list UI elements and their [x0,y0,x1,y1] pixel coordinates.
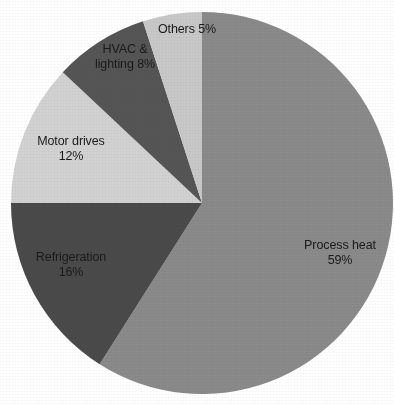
pie-slices-group [11,12,393,394]
pie-chart: Process heat 59% Refrigeration 16% Motor… [0,0,394,404]
pie-chart-canvas [0,0,394,404]
